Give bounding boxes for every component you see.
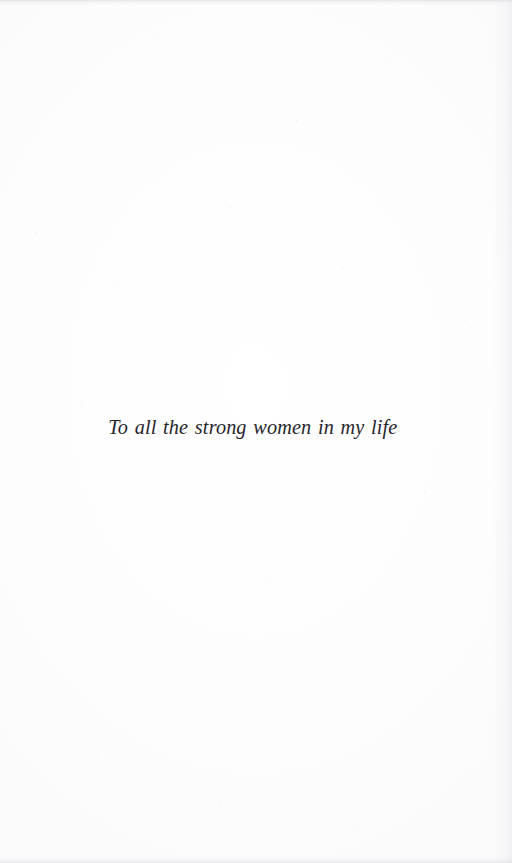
scan-edge-top (0, 0, 512, 5)
dedication-text: To all the strong women in my life (108, 414, 397, 440)
scan-edge-bottom (0, 856, 512, 863)
dedication-page: To all the strong women in my life (0, 0, 512, 863)
dedication-block: To all the strong women in my life (0, 414, 512, 440)
